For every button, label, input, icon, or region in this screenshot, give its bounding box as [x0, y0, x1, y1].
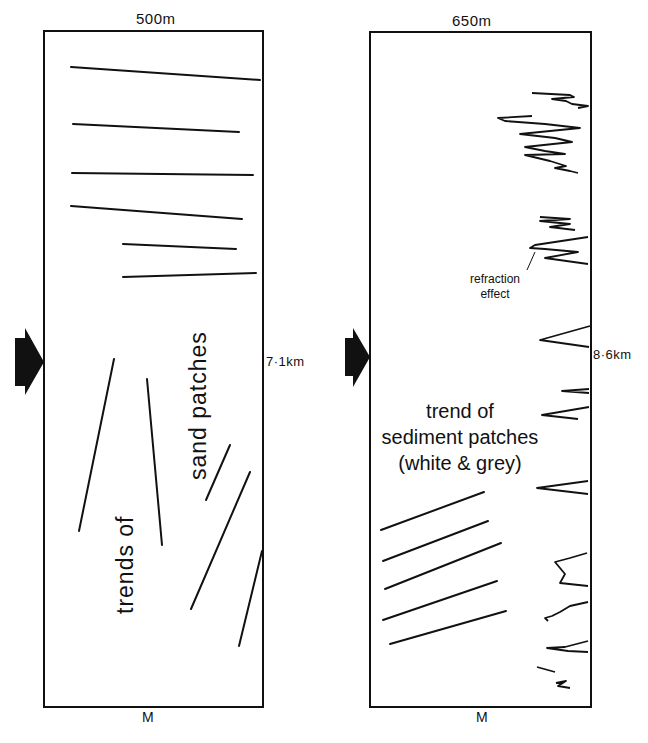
trend-line — [239, 551, 262, 646]
left-length-label: 7·1km — [266, 354, 305, 369]
left-vertical-text-sand-patches: sand patches — [185, 331, 212, 480]
trend-line — [79, 359, 114, 531]
direction-arrow-icon — [15, 328, 44, 395]
trend-line — [123, 244, 236, 249]
left-bottom-marker: M — [142, 709, 154, 725]
right-length-label: 8·6km — [593, 347, 632, 362]
trend-line-3: (white & grey) — [375, 450, 545, 476]
left-trend-lines — [71, 67, 262, 646]
trend-line — [390, 611, 506, 644]
right-bottom-marker: M — [476, 709, 488, 725]
right-width-label: 650m — [452, 12, 492, 29]
trend-line-1: trend of — [375, 398, 545, 424]
left-vertical-text-trends-of: trends of — [112, 516, 139, 615]
trend-line — [381, 492, 484, 530]
refraction-annotation: refraction effect — [460, 272, 530, 302]
right-panel-frame — [370, 32, 591, 707]
trend-label: trend of sediment patches (white & grey) — [375, 398, 545, 476]
sediment-edge-traces — [498, 93, 590, 688]
left-width-label: 500m — [136, 10, 176, 27]
direction-arrow-icon — [345, 328, 370, 387]
refraction-pointer — [527, 252, 535, 270]
trend-line — [191, 472, 250, 609]
trend-line — [73, 124, 239, 132]
trend-line — [123, 273, 256, 277]
diagram-canvas — [0, 0, 648, 743]
trend-line — [383, 581, 497, 620]
right-trend-lines — [381, 492, 506, 644]
annotation-line-2: effect — [460, 287, 530, 302]
trend-line — [71, 67, 260, 80]
trend-line — [147, 379, 162, 545]
trend-line — [385, 543, 501, 589]
trend-line-2: sediment patches — [375, 424, 545, 450]
trend-line — [72, 173, 253, 175]
trend-line — [71, 206, 242, 219]
annotation-line-1: refraction — [460, 272, 530, 287]
